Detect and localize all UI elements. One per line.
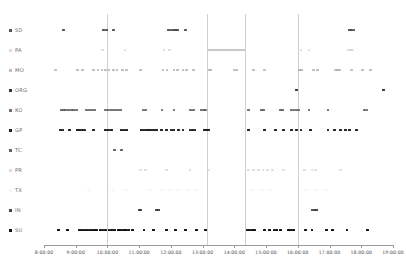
data-point-gp-36 (282, 129, 285, 131)
data-point-gp-38 (295, 129, 298, 131)
category-marker-icon (9, 229, 12, 232)
data-point-pr-12 (303, 169, 306, 171)
data-point-gp-25 (177, 129, 180, 131)
data-point-ko-16 (119, 109, 122, 111)
category-label-text: GP (15, 127, 23, 133)
data-point-tx-11 (268, 189, 271, 191)
x-tick-5 (203, 245, 204, 248)
category-label-sd: SD (0, 25, 44, 35)
data-point-mo-19 (192, 69, 195, 71)
data-point-pa-3 (168, 49, 171, 51)
data-point-su-32 (253, 229, 256, 231)
data-point-su-23 (152, 229, 155, 231)
data-point-gp-20 (155, 129, 158, 131)
category-marker-icon (9, 69, 12, 72)
data-point-pr-15 (339, 169, 342, 171)
data-point-mo-35 (369, 69, 372, 71)
data-point-tx-1 (111, 189, 114, 191)
data-point-mo-33 (350, 69, 353, 71)
data-point-su-43 (325, 229, 328, 231)
data-point-mo-34 (361, 69, 364, 71)
x-tick-label-8: 16:00:00 (287, 250, 308, 255)
x-tick-label-9: 17:00:00 (319, 250, 340, 255)
data-point-mo-3 (92, 69, 95, 71)
x-axis-line (44, 245, 393, 246)
category-label-text: KO (15, 107, 23, 113)
data-point-org-0 (295, 89, 298, 91)
x-tick-label-5: 13:00:00 (192, 250, 213, 255)
data-point-tx-3 (149, 189, 152, 191)
x-tick-0 (44, 245, 45, 248)
data-point-sd-8 (176, 29, 179, 31)
data-point-tx-2 (125, 189, 128, 191)
data-point-tx-13 (314, 189, 317, 191)
data-point-su-36 (275, 229, 278, 231)
data-point-gp-42 (333, 129, 336, 131)
data-point-gp-46 (355, 129, 358, 131)
data-point-tx-10 (260, 189, 263, 191)
data-point-tx-14 (325, 189, 328, 191)
data-point-tx-9 (250, 189, 253, 191)
data-point-gp-34 (263, 129, 266, 131)
data-point-mo-28 (312, 69, 315, 71)
data-point-mo-6 (104, 69, 107, 71)
x-tick-label-11: 19:00:00 (382, 250, 403, 255)
x-tick-label-0: 8:00:00 (35, 250, 53, 255)
x-tick-label-7: 15:00:00 (255, 250, 276, 255)
data-point-mo-18 (185, 69, 188, 71)
data-point-pr-11 (282, 169, 285, 171)
data-point-mo-10 (121, 69, 124, 71)
category-label-tc: TC (0, 145, 44, 155)
category-marker-icon (9, 89, 12, 92)
x-tick-4 (171, 245, 172, 248)
data-point-tx-12 (304, 189, 307, 191)
data-point-gp-13 (125, 129, 128, 131)
x-tick-10 (361, 245, 362, 248)
data-point-su-1 (66, 229, 69, 231)
category-marker-icon (9, 109, 12, 112)
data-point-org-1 (382, 89, 385, 91)
data-point-mo-11 (125, 69, 128, 71)
data-point-su-40 (292, 229, 295, 231)
data-point-ko-10 (93, 109, 96, 111)
data-point-gp-2 (68, 129, 71, 131)
data-point-mo-24 (252, 69, 255, 71)
data-point-pr-5 (247, 169, 250, 171)
data-point-pa-1 (124, 49, 127, 51)
data-point-in-3 (157, 209, 160, 211)
data-point-mo-12 (139, 69, 142, 71)
chart-container: SDPAMOORGKOGPTCPRTXINSU 8:00:009:00:0010… (0, 0, 406, 277)
data-point-ko-26 (247, 109, 250, 111)
x-tick-label-2: 10:00:00 (97, 250, 118, 255)
category-marker-icon (9, 29, 12, 32)
data-point-ko-30 (281, 109, 284, 111)
data-point-gp-33 (247, 129, 250, 131)
category-label-text: PR (15, 167, 22, 173)
category-label-text: ORG (15, 87, 27, 93)
data-point-tx-4 (160, 189, 163, 191)
data-point-mo-2 (81, 69, 84, 71)
data-point-sd-2 (105, 29, 108, 31)
data-point-su-0 (57, 229, 60, 231)
category-marker-icon (9, 49, 12, 52)
data-point-su-44 (331, 229, 334, 231)
category-label-text: PA (15, 47, 22, 53)
category-marker-icon (9, 169, 12, 172)
data-point-ko-25 (204, 109, 207, 111)
plot-area (44, 14, 393, 245)
data-point-mo-1 (76, 69, 79, 71)
data-point-gp-37 (290, 129, 293, 131)
data-point-mo-8 (112, 69, 115, 71)
data-point-sd-9 (184, 29, 187, 31)
data-point-gp-45 (348, 129, 351, 131)
gridline-vertical-3 (298, 14, 299, 245)
category-label-tx: TX (0, 185, 44, 195)
data-point-pr-6 (252, 169, 255, 171)
x-tick-7 (266, 245, 267, 248)
category-label-ko: KO (0, 105, 44, 115)
data-point-in-1 (139, 209, 142, 211)
data-point-gp-10 (110, 129, 113, 131)
category-label-text: MO (15, 67, 24, 73)
data-point-tc-1 (120, 149, 123, 151)
data-point-pr-0 (139, 169, 142, 171)
